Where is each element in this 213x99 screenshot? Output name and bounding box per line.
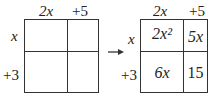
- left-col-header-1: 2x: [39, 4, 53, 19]
- cell-product-r2c1: 6x: [141, 64, 183, 82]
- right-arrow-icon: [108, 48, 124, 56]
- right-grid-divider-h: [141, 51, 207, 52]
- left-row-header-1: x: [11, 29, 18, 44]
- left-row-header-2: +3: [3, 68, 19, 83]
- cell-product-r1c1: 2x²: [141, 25, 183, 43]
- left-grid-box: [24, 19, 99, 93]
- left-grid-divider-v: [67, 20, 68, 92]
- cell-product-r1c2: 5x: [183, 28, 208, 46]
- right-col-header-2: +5: [189, 4, 205, 19]
- right-col-header-1: 2x: [153, 4, 167, 19]
- left-col-header-2: +5: [72, 4, 88, 19]
- right-grid-box: 2x² 5x 6x 15: [140, 19, 208, 93]
- right-row-header-2: +3: [121, 68, 137, 83]
- right-row-header-1: x: [128, 32, 135, 47]
- left-grid-divider-h: [25, 51, 98, 52]
- cell-product-r2c2: 15: [183, 64, 208, 82]
